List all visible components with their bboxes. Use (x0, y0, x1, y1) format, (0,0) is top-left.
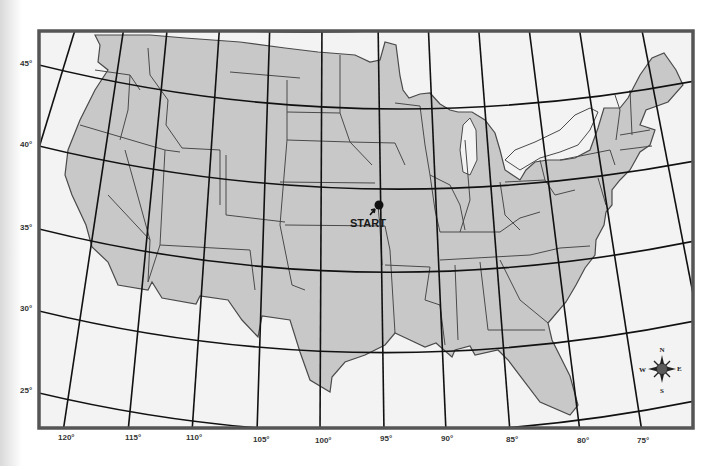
lon-label-85: 85° (506, 435, 518, 444)
lon-label-80: 80° (577, 436, 589, 445)
compass-e: E (677, 365, 682, 373)
lon-label-120: 120° (58, 433, 75, 442)
lon-label-95: 95° (380, 434, 392, 443)
lake-michigan (460, 118, 477, 175)
lon-label-115: 115° (125, 433, 141, 442)
lat-label-25: 25° (20, 386, 32, 395)
compass-n: N (660, 346, 665, 354)
lat-label-45: 45° (20, 59, 32, 68)
lat-label-35: 35° (20, 223, 32, 232)
lon-label-75: 75° (637, 436, 649, 445)
lon-label-100: 100° (315, 436, 332, 445)
lat-label-30: 30° (20, 304, 32, 313)
lon-label-110: 110° (186, 433, 202, 442)
lon-label-90: 90° (441, 434, 453, 443)
us-map: 45° 40° 35° 30° 25° 120° 115° 110° 105° … (0, 0, 726, 466)
start-label: START (350, 217, 386, 229)
lon-label-105: 105° (253, 435, 270, 444)
lat-label-40: 40° (20, 140, 32, 149)
compass-s: S (660, 387, 664, 395)
compass-w: W (639, 366, 646, 374)
start-dot (375, 201, 384, 210)
